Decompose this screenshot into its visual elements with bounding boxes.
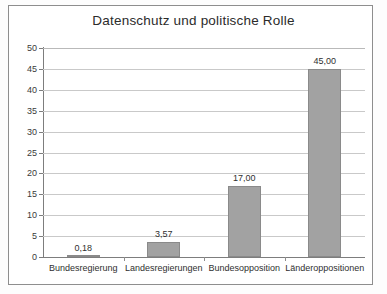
x-axis-tick-mark (204, 257, 205, 261)
y-tick-mark-35 (39, 111, 43, 112)
x-axis-category-label: Länderoppositionen (285, 263, 364, 273)
y-tick-mark-10 (39, 215, 43, 216)
x-axis-tick-mark (285, 257, 286, 261)
y-axis-tick-labels: 05101520253035404550 (0, 0, 37, 294)
y-tick-label-35: 35 (3, 106, 37, 116)
plot-area: 0,183,5717,0045,00 (43, 48, 365, 257)
bar[interactable] (308, 69, 341, 257)
bar-value-label: 45,00 (313, 56, 336, 66)
y-tick-label-0: 0 (3, 252, 37, 262)
x-axis-category-label: Bundesregierung (49, 263, 118, 273)
y-tick-label-5: 5 (3, 231, 37, 241)
y-tick-label-30: 30 (3, 127, 37, 137)
y-tick-mark-30 (39, 132, 43, 133)
y-tick-mark-25 (39, 153, 43, 154)
y-tick-mark-0 (39, 257, 43, 258)
y-tick-label-40: 40 (3, 85, 37, 95)
y-tick-mark-20 (39, 173, 43, 174)
x-axis-tick-mark (124, 257, 125, 261)
bar-value-label: 17,00 (233, 173, 256, 183)
bar[interactable] (228, 186, 261, 257)
y-tick-mark-15 (39, 194, 43, 195)
bar-value-label: 3,57 (155, 229, 173, 239)
y-tick-label-10: 10 (3, 210, 37, 220)
y-tick-label-25: 25 (3, 148, 37, 158)
x-axis-category-label: Bundesopposition (208, 263, 280, 273)
y-tick-label-50: 50 (3, 43, 37, 53)
y-tick-mark-50 (39, 48, 43, 49)
bar[interactable] (147, 242, 180, 257)
y-tick-mark-5 (39, 236, 43, 237)
y-tick-mark-45 (39, 69, 43, 70)
bar-value-label: 0,18 (74, 243, 92, 253)
chart-title: Datenschutz und politische Rolle (0, 13, 387, 28)
bar[interactable] (67, 255, 100, 257)
y-tick-mark-40 (39, 90, 43, 91)
gridline-50 (43, 48, 365, 49)
x-axis-category-label: Landesregierungen (125, 263, 203, 273)
y-tick-label-15: 15 (3, 189, 37, 199)
y-tick-label-45: 45 (3, 64, 37, 74)
y-tick-label-20: 20 (3, 168, 37, 178)
